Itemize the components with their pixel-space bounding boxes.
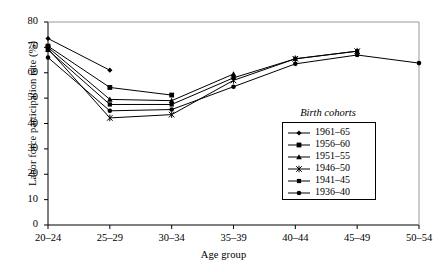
x-axis-tick-label: 40–44	[265, 232, 325, 243]
y-axis-tick-label: 50	[12, 91, 38, 102]
data-point-marker	[293, 62, 298, 67]
y-axis-tick-label: 20	[12, 167, 38, 178]
data-point-marker	[297, 191, 302, 196]
data-point-marker	[231, 71, 237, 76]
data-point-marker	[293, 57, 297, 61]
legend-item-label: 1946–50	[311, 162, 350, 173]
data-point-marker	[297, 179, 301, 183]
data-point-marker	[108, 109, 113, 114]
legend-item-label: 1951–55	[311, 150, 350, 161]
y-axis-tick-label: 30	[12, 142, 38, 153]
legend-marker-square-small-icon	[287, 173, 311, 185]
legend-item-label: 1941–45	[311, 174, 350, 185]
legend-item-label: 1961–65	[311, 126, 350, 137]
legend: 1961–651956–601951–551946–501941–451936–…	[282, 122, 376, 200]
x-axis-tick-label: 25–29	[80, 232, 140, 243]
legend-marker-diamond-icon	[287, 125, 311, 137]
data-point-marker	[169, 107, 174, 112]
data-point-marker	[107, 68, 112, 73]
data-point-marker	[46, 48, 50, 52]
data-point-marker	[231, 84, 236, 89]
legend-item: 1936–40	[283, 185, 375, 197]
legend-marker-circle-icon	[287, 185, 311, 197]
data-point-marker	[107, 85, 112, 90]
data-point-marker	[45, 36, 50, 41]
legend-marker-triangle-icon	[287, 149, 311, 161]
data-point-marker	[46, 55, 51, 60]
legend-marker-square-icon	[287, 137, 311, 149]
data-point-marker	[296, 130, 301, 135]
data-point-marker	[297, 143, 302, 148]
x-axis-title: Age group	[0, 249, 447, 260]
y-axis-tick-label: 0	[12, 218, 38, 229]
y-axis-tick-label: 40	[12, 117, 38, 128]
legend-item: 1946–50	[283, 161, 375, 173]
x-axis-tick-label: 30–34	[142, 232, 202, 243]
legend-item: 1951–55	[283, 149, 375, 161]
y-axis-tick-label: 60	[12, 66, 38, 77]
legend-item: 1941–45	[283, 173, 375, 185]
data-point-marker	[355, 53, 360, 58]
x-axis-tick-label: 50–54	[389, 232, 447, 243]
data-point-marker	[169, 93, 174, 98]
legend-item-label: 1956–60	[311, 138, 350, 149]
x-axis-tick-label: 20–24	[18, 232, 78, 243]
legend-item: 1956–60	[283, 137, 375, 149]
chart-container: Labor force participation rate (%) Age g…	[0, 0, 447, 272]
legend-item: 1961–65	[283, 125, 375, 137]
data-point-marker	[170, 102, 174, 106]
y-axis-tick-label: 80	[12, 15, 38, 26]
x-axis-tick-label: 45–49	[327, 232, 387, 243]
y-axis-tick-label: 70	[12, 40, 38, 51]
y-axis-tick-label: 10	[12, 193, 38, 204]
data-point-marker	[417, 61, 422, 66]
data-point-marker	[355, 49, 359, 53]
legend-item-label: 1936–40	[311, 186, 350, 197]
data-point-marker	[108, 102, 112, 106]
legend-title: Birth cohorts	[282, 107, 374, 118]
data-point-marker	[231, 76, 235, 80]
legend-marker-asterisk-icon	[287, 161, 311, 173]
x-axis-tick-label: 35–39	[204, 232, 264, 243]
